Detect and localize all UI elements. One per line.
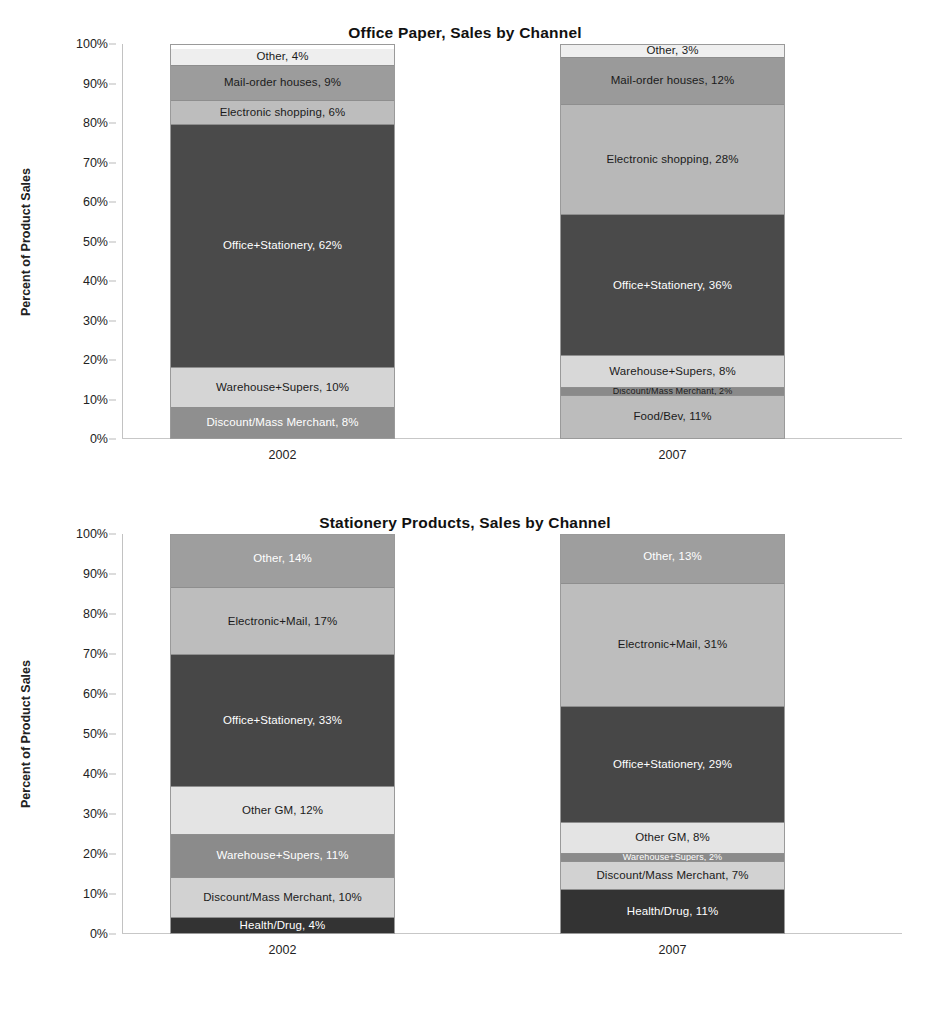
bar-segment[interactable]: Discount/Mass Merchant, 7% — [561, 861, 784, 889]
bar-segment-label: Discount/Mass Merchant, 7% — [592, 869, 752, 882]
bar-segment[interactable]: Discount/Mass Merchant, 2% — [561, 387, 784, 395]
y-tick-mark — [109, 439, 116, 440]
bar-segment-label: Electronic+Mail, 31% — [614, 638, 732, 651]
bar-segment[interactable]: Office+Stationery, 36% — [561, 214, 784, 355]
bar-segment[interactable]: Office+Stationery, 29% — [561, 706, 784, 821]
y-tick-mark — [109, 814, 116, 815]
y-tick-label: 10% — [83, 887, 108, 901]
bar-segment[interactable]: Warehouse+Supers, 11% — [171, 834, 394, 878]
y-axis-title: Percent of Product Sales — [19, 162, 33, 322]
bar-column: Health/Drug, 11%Discount/Mass Merchant, … — [560, 534, 785, 934]
stacked-bar: Health/Drug, 4%Discount/Mass Merchant, 1… — [170, 534, 395, 934]
y-tick-label: 70% — [83, 647, 108, 661]
bar-segment[interactable]: Discount/Mass Merchant, 8% — [171, 407, 394, 438]
y-tick-mark — [109, 734, 116, 735]
bar-segment[interactable]: Electronic shopping, 6% — [171, 100, 394, 124]
bar-segment[interactable]: Discount/Mass Merchant, 10% — [171, 877, 394, 917]
bar-segment[interactable]: Electronic+Mail, 17% — [171, 587, 394, 655]
bar-segment[interactable]: Other GM, 8% — [561, 822, 784, 854]
y-tick-label: 100% — [76, 527, 108, 541]
bar-segment[interactable]: Electronic shopping, 28% — [561, 104, 784, 214]
bar-segment[interactable]: Warehouse+Supers, 2% — [561, 853, 784, 861]
bar-segment[interactable]: Other, 4% — [171, 49, 394, 65]
y-axis-ticks: 0%10%20%30%40%50%60%70%80%90%100% — [56, 44, 116, 439]
bar-segment-label: Office+Stationery, 62% — [219, 239, 346, 252]
bar-segment-label: Other, 4% — [252, 50, 312, 63]
y-tick-mark — [109, 202, 116, 203]
y-tick-label: 50% — [83, 727, 108, 741]
bar-segment-label: Health/Drug, 4% — [236, 919, 330, 932]
y-tick-mark — [109, 83, 116, 84]
bar-segment-label: Electronic+Mail, 17% — [224, 615, 342, 628]
bar-column: Health/Drug, 4%Discount/Mass Merchant, 1… — [170, 534, 395, 934]
y-tick-label: 20% — [83, 847, 108, 861]
bar-segment-label: Warehouse+Supers, 2% — [619, 853, 726, 861]
bar-segment[interactable]: Other, 14% — [171, 534, 394, 587]
y-tick-mark — [109, 934, 116, 935]
y-tick-mark — [109, 320, 116, 321]
y-tick-mark — [109, 123, 116, 124]
bar-column: Food/Bev, 11%Discount/Mass Merchant, 2%W… — [560, 44, 785, 439]
y-tick-label: 30% — [83, 314, 108, 328]
y-axis-ticks: 0%10%20%30%40%50%60%70%80%90%100% — [56, 534, 116, 934]
chart-stationery-products: Stationery Products, Sales by Channel Pe… — [0, 512, 930, 1028]
bars-container: Discount/Mass Merchant, 8%Warehouse+Supe… — [123, 44, 902, 439]
x-axis-label: 2007 — [560, 448, 785, 462]
figure-page: Office Paper, Sales by Channel Percent o… — [0, 0, 930, 1028]
x-axis-label: 2002 — [170, 943, 395, 957]
bar-segment[interactable]: Office+Stationery, 62% — [171, 124, 394, 368]
bar-segment-label: Warehouse+Supers, 8% — [605, 365, 740, 378]
x-axis-label: 2007 — [560, 943, 785, 957]
y-tick-mark — [109, 654, 116, 655]
bar-segment[interactable]: Warehouse+Supers, 10% — [171, 367, 394, 406]
chart-office-paper: Office Paper, Sales by Channel Percent o… — [0, 22, 930, 512]
bar-segment-label: Electronic shopping, 28% — [602, 153, 742, 166]
y-tick-mark — [109, 281, 116, 282]
plot-area: Percent of Product Sales 0%10%20%30%40%5… — [0, 534, 930, 934]
bar-segment[interactable]: Health/Drug, 11% — [561, 889, 784, 933]
bar-segment[interactable]: Other, 3% — [561, 45, 784, 57]
bar-segment-label: Office+Stationery, 33% — [219, 714, 346, 727]
stacked-bar: Health/Drug, 11%Discount/Mass Merchant, … — [560, 534, 785, 934]
bar-segment-label: Other GM, 8% — [631, 831, 714, 844]
bar-segment-label: Other, 14% — [249, 552, 316, 565]
y-tick-mark — [109, 162, 116, 163]
bar-segment[interactable]: Mail-order houses, 12% — [561, 57, 784, 104]
y-tick-mark — [109, 894, 116, 895]
bar-segment[interactable]: Other GM, 12% — [171, 786, 394, 834]
y-tick-mark — [109, 694, 116, 695]
bar-segment-label: Other GM, 12% — [238, 804, 327, 817]
bar-segment-label: Office+Stationery, 29% — [609, 758, 736, 771]
plot-area: Percent of Product Sales 0%10%20%30%40%5… — [0, 44, 930, 439]
y-tick-mark — [109, 399, 116, 400]
y-tick-label: 50% — [83, 235, 108, 249]
x-axis-labels: 20022007 — [123, 934, 902, 968]
bar-segment-label: Warehouse+Supers, 11% — [212, 849, 352, 862]
y-tick-mark — [109, 614, 116, 615]
y-tick-mark — [109, 360, 116, 361]
y-tick-label: 60% — [83, 195, 108, 209]
bar-segment[interactable]: Electronic+Mail, 31% — [561, 583, 784, 706]
y-tick-label: 80% — [83, 607, 108, 621]
bar-segment[interactable]: Food/Bev, 11% — [561, 395, 784, 438]
y-tick-label: 40% — [83, 274, 108, 288]
bar-segment-label: Mail-order houses, 12% — [607, 74, 739, 87]
bar-segment[interactable]: Mail-order houses, 9% — [171, 65, 394, 100]
bar-segment[interactable]: Office+Stationery, 33% — [171, 654, 394, 785]
chart-title: Office Paper, Sales by Channel — [0, 22, 930, 44]
figure-caption — [0, 1016, 930, 1028]
y-tick-label: 80% — [83, 116, 108, 130]
y-tick-label: 90% — [83, 77, 108, 91]
bar-segment-label: Warehouse+Supers, 10% — [212, 381, 353, 394]
bar-segment-label: Other, 3% — [642, 45, 702, 57]
y-tick-mark — [109, 774, 116, 775]
bar-segment-label: Food/Bev, 11% — [629, 410, 715, 423]
bar-segment[interactable]: Warehouse+Supers, 8% — [561, 355, 784, 386]
y-tick-label: 60% — [83, 687, 108, 701]
bar-segment[interactable]: Health/Drug, 4% — [171, 917, 394, 933]
bar-segment-label: Health/Drug, 11% — [623, 905, 723, 918]
y-tick-mark — [109, 534, 116, 535]
bar-segment-label: Discount/Mass Merchant, 10% — [199, 891, 366, 904]
y-tick-mark — [109, 241, 116, 242]
bar-segment[interactable]: Other, 13% — [561, 534, 784, 583]
